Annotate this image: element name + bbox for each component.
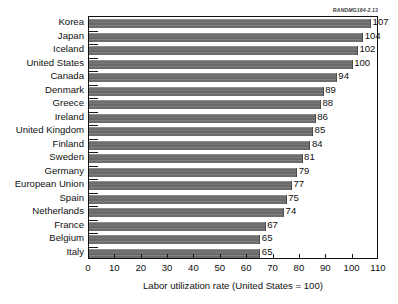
value-label: 104: [365, 31, 381, 41]
category-label: Denmark: [45, 85, 84, 95]
bar-fill: [89, 100, 321, 109]
value-label: 102: [359, 44, 375, 54]
x-axis-tick: [114, 254, 115, 259]
category-label: Italy: [66, 247, 84, 257]
x-axis-tick-label: 30: [162, 262, 173, 273]
x-axis-tick: [273, 254, 274, 259]
labor-utilization-bar-chart-figure: RANDMG164-2.13 KoreaJapanIcelandUnited S…: [0, 0, 398, 304]
bar-belgium: [89, 235, 377, 244]
bar-japan: [89, 33, 377, 42]
category-label: Iceland: [53, 44, 84, 54]
value-label: 65: [262, 247, 273, 257]
x-axis-tick-label: 70: [267, 262, 278, 273]
value-label: 107: [373, 17, 389, 27]
category-axis-tick: [89, 98, 98, 99]
bar-fill: [89, 46, 358, 55]
bar-netherlands: [89, 208, 377, 217]
bar-fill: [89, 235, 260, 244]
x-axis-tick: [352, 254, 353, 259]
value-label: 81: [304, 152, 315, 162]
bar-spain: [89, 195, 377, 204]
category-axis-tick: [89, 220, 98, 221]
value-label: 94: [338, 71, 349, 81]
value-label: 77: [294, 179, 305, 189]
category-axis-tick: [89, 58, 98, 59]
x-axis-tick: [220, 254, 221, 259]
category-label: United Kingdom: [16, 125, 84, 135]
category-label: Sweden: [49, 152, 84, 162]
category-axis-tick: [89, 152, 98, 153]
bars-layer: [89, 17, 377, 258]
bar-fill: [89, 19, 371, 28]
value-label: 74: [286, 206, 297, 216]
bar-korea: [89, 19, 377, 28]
x-axis-tick: [141, 254, 142, 259]
bar-fill: [89, 222, 266, 231]
bar-germany: [89, 168, 377, 177]
bar-fill: [89, 195, 287, 204]
x-axis-tick-label: 110: [370, 262, 385, 273]
category-label: Korea: [58, 17, 84, 27]
category-label: Canada: [50, 71, 84, 81]
bar-canada: [89, 73, 377, 82]
bar-finland: [89, 141, 377, 150]
category-axis-tick: [89, 247, 98, 248]
category-label: Ireland: [55, 112, 84, 122]
value-label: 85: [315, 125, 326, 135]
x-axis-tick: [299, 254, 300, 259]
bar-fill: [89, 33, 363, 42]
x-axis-tick-label: 100: [344, 262, 360, 273]
bar-ireland: [89, 114, 377, 123]
x-axis-tick-label: 10: [109, 262, 120, 273]
category-axis-tick: [89, 193, 98, 194]
category-label: Spain: [59, 193, 84, 203]
bar-italy: [89, 249, 377, 258]
bar-united-kingdom: [89, 127, 377, 136]
category-axis-tick: [89, 139, 98, 140]
category-axis-tick: [89, 112, 98, 113]
bar-fill: [89, 87, 324, 96]
category-axis-tick: [89, 179, 98, 180]
category-label: Japan: [58, 31, 84, 41]
bar-fill: [89, 154, 303, 163]
bar-fill: [89, 168, 297, 177]
category-axis-tick: [89, 125, 98, 126]
x-axis-tick-label: 0: [85, 262, 90, 273]
x-axis-tick: [167, 254, 168, 259]
category-label: France: [54, 220, 84, 230]
category-label: Netherlands: [32, 206, 84, 216]
x-axis-tick-label: 40: [188, 262, 199, 273]
value-label: 86: [317, 112, 328, 122]
report-source-label: RANDMG164-2.13: [333, 7, 378, 13]
bar-fill: [89, 208, 284, 217]
plot-frame: [88, 16, 378, 259]
x-axis-tick: [325, 254, 326, 259]
category-label: Finland: [53, 139, 84, 149]
value-label: 65: [262, 233, 273, 243]
x-axis-tick: [193, 254, 194, 259]
category-axis-tick: [89, 85, 98, 86]
category-label: United States: [26, 58, 84, 68]
category-axis-tick: [89, 71, 98, 72]
bar-fill: [89, 114, 316, 123]
category-label: Belgium: [49, 233, 84, 243]
x-axis-tick-label: 60: [241, 262, 252, 273]
x-axis-title: Labor utilization rate (United States = …: [88, 280, 378, 291]
bar-greece: [89, 100, 377, 109]
x-axis-tick-label: 90: [320, 262, 331, 273]
x-axis-tick-label: 80: [294, 262, 305, 273]
category-label: Greece: [53, 98, 84, 108]
bar-fill: [89, 73, 337, 82]
bar-fill: [89, 60, 353, 69]
category-axis-tick: [89, 166, 98, 167]
category-axis-tick: [89, 233, 98, 234]
value-label: 67: [267, 220, 278, 230]
value-label: 88: [323, 98, 334, 108]
value-label: 89: [325, 85, 336, 95]
bar-european-union: [89, 181, 377, 190]
value-label: 84: [312, 139, 323, 149]
value-label: 100: [354, 58, 370, 68]
category-axis-tick: [89, 44, 98, 45]
value-label: 79: [299, 166, 310, 176]
x-axis-tick-label: 20: [135, 262, 146, 273]
